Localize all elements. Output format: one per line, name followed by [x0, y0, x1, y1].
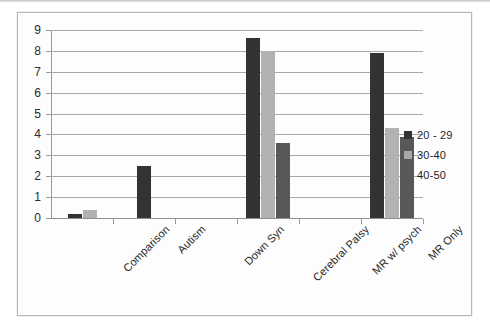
bar-group [175, 30, 237, 218]
legend-item[interactable]: 20 - 29 [404, 125, 470, 145]
category-tick [423, 219, 424, 224]
bar [68, 214, 82, 218]
chart-frame: 9 8 7 6 5 4 3 2 1 0 [17, 12, 472, 316]
bar [370, 53, 384, 218]
bar-group [361, 30, 423, 218]
legend-item-label: 30-40 [417, 149, 446, 161]
y-tick-label: 1 [34, 191, 41, 203]
y-tick-label: 8 [34, 45, 41, 57]
y-tick-label: 2 [34, 170, 41, 182]
y-tick-label: 3 [34, 149, 41, 161]
y-tick-label: 4 [34, 128, 41, 140]
legend-item-label: 40-50 [417, 169, 446, 181]
legend-swatch-icon [404, 151, 412, 159]
bar-group [237, 30, 299, 218]
scan-artifact-line [0, 0, 490, 3]
x-axis-labels: Comparison Autism Down Syn Cerebral Pals… [51, 219, 423, 299]
bar [137, 166, 151, 218]
legend-swatch-icon [404, 131, 412, 139]
x-axis-label: Down Syn [242, 223, 287, 268]
legend-item-label: 20 - 29 [417, 129, 453, 141]
y-tick-label: 7 [34, 66, 41, 78]
plot-area [51, 30, 423, 218]
x-axis-label: MR w/ psych [370, 223, 424, 277]
bar-group [299, 30, 361, 218]
legend-item[interactable]: 40-50 [404, 165, 470, 185]
chart-legend: 20 - 29 30-40 40-50 [404, 125, 470, 185]
bar [246, 38, 260, 218]
bar-group [113, 30, 175, 218]
y-tick-label: 5 [34, 108, 41, 120]
chart-plot-wrapper: 9 8 7 6 5 4 3 2 1 0 [18, 13, 473, 317]
bar [276, 143, 290, 218]
y-tick-label: 9 [34, 24, 41, 36]
y-tick-label: 0 [34, 212, 41, 224]
y-axis-labels: 9 8 7 6 5 4 3 2 1 0 [18, 30, 46, 218]
legend-item[interactable]: 30-40 [404, 145, 470, 165]
y-tick-label: 6 [34, 87, 41, 99]
legend-swatch-icon [404, 171, 412, 179]
bar-group [51, 30, 113, 218]
bar [385, 128, 399, 218]
x-axis-label: Cerebral Palsy [311, 223, 371, 283]
x-axis-label: Autism [175, 223, 208, 256]
bar [261, 51, 275, 218]
x-axis-label: MR Only [426, 223, 465, 262]
bar [83, 210, 97, 218]
x-axis-label: Comparison [121, 223, 172, 274]
